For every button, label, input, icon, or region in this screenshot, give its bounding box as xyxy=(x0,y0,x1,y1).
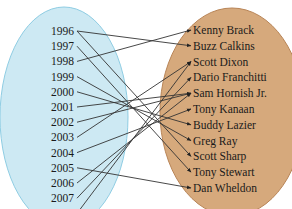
champion-label: Scott Sharp xyxy=(193,150,247,163)
year-label: 2007 xyxy=(51,192,74,204)
year-label: 2006 xyxy=(51,177,74,189)
champion-label: Kenny Brack xyxy=(193,24,254,37)
champion-label: Tony Stewart xyxy=(193,166,255,179)
champion-label: Sam Hornish Jr. xyxy=(193,87,267,99)
mapping-diagram: 1996199719981999200020012002200320042005… xyxy=(0,0,292,209)
year-label: 2001 xyxy=(51,101,74,113)
year-label: 1996 xyxy=(51,25,74,37)
year-label: 1997 xyxy=(51,40,74,52)
year-label: 1998 xyxy=(51,55,74,67)
year-label: 2003 xyxy=(51,131,74,143)
champion-label: Dario Franchitti xyxy=(193,71,267,83)
year-label: 1999 xyxy=(51,71,74,83)
champion-label: Buddy Lazier xyxy=(193,119,256,132)
champion-label: Greg Ray xyxy=(193,135,238,148)
year-label: 2000 xyxy=(51,86,74,98)
year-label: 2005 xyxy=(51,162,74,174)
champion-label: Buzz Calkins xyxy=(193,40,255,52)
champion-label: Tony Kanaan xyxy=(193,103,255,116)
year-label: 2008 xyxy=(51,207,74,209)
year-label: 2004 xyxy=(51,147,74,159)
year-label: 2002 xyxy=(51,116,74,128)
champion-label: Scott Dixon xyxy=(193,56,249,68)
champion-label: Dan Wheldon xyxy=(193,182,257,194)
